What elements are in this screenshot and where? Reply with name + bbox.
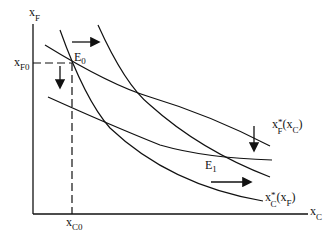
x-axis-label: xC (310, 204, 322, 222)
f-reaction-label: x*F(xC) (272, 117, 303, 136)
e1-label: E1 (205, 158, 217, 174)
xc0-label: xC0 (66, 215, 83, 232)
f-reaction-curve-shifted (48, 97, 272, 160)
xf0-label: xF0 (14, 55, 30, 72)
e0-label: E0 (74, 50, 86, 66)
c-reaction-curve-shifted (98, 25, 270, 177)
reaction-diagram: xF xC xF0 xC0 E0 E1 x*F(xC) x*C(xF) (0, 0, 334, 235)
c-reaction-label: x*C(xF) (265, 190, 296, 209)
y-axis-label: xF (29, 5, 40, 23)
